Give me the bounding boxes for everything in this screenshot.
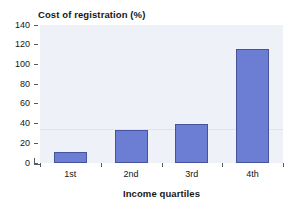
- y-axis-tick-label: 120: [15, 40, 34, 49]
- x-axis-tick-mark: [222, 163, 223, 167]
- y-axis-tick-label: 80: [20, 80, 34, 89]
- x-axis-title: Income quartiles: [40, 188, 283, 199]
- y-axis-tick-mark: [34, 103, 38, 104]
- y-axis-tick-label: 100: [15, 60, 34, 69]
- bar[interactable]: [115, 130, 148, 163]
- chart-title: Cost of registration (%): [38, 9, 145, 20]
- x-tick-labels: 1st2nd3rd4th: [40, 169, 283, 179]
- y-axis-tick-mark: [34, 25, 38, 26]
- x-axis-tick-mark: [40, 163, 41, 167]
- bar[interactable]: [236, 49, 269, 163]
- y-axis-tick-mark: [34, 84, 38, 85]
- bar-slot: [101, 25, 162, 163]
- x-axis-category-label: 4th: [222, 169, 283, 179]
- y-axis-tick-label: 40: [20, 119, 34, 128]
- y-axis-tick-mark: [34, 44, 38, 45]
- y-axis-tick-mark: [34, 64, 38, 65]
- bars-layer: [40, 25, 283, 163]
- plot-area: [40, 25, 283, 163]
- bar-slot: [162, 25, 223, 163]
- x-axis-tick-mark: [283, 163, 284, 167]
- bar-slot: [40, 25, 101, 163]
- x-axis-tick-mark: [101, 163, 102, 167]
- y-axis-tick-label: 140: [15, 21, 34, 30]
- y-axis-tick-mark: [34, 123, 38, 124]
- bar[interactable]: [175, 124, 208, 163]
- bar-slot: [222, 25, 283, 163]
- x-axis-category-label: 3rd: [162, 169, 223, 179]
- x-axis-category-label: 1st: [40, 169, 101, 179]
- y-axis-tick-mark: [34, 143, 38, 144]
- y-axis: 020406080100120140: [0, 25, 40, 163]
- x-axis-tick-mark: [162, 163, 163, 167]
- y-axis-tick-label: 60: [20, 99, 34, 108]
- y-axis-tick-label: 20: [20, 139, 34, 148]
- x-axis-category-label: 2nd: [101, 169, 162, 179]
- y-axis-tick-label: 0: [25, 159, 34, 168]
- bar[interactable]: [54, 152, 87, 163]
- bar-chart-figure: Cost of registration (%) 020406080100120…: [0, 0, 295, 206]
